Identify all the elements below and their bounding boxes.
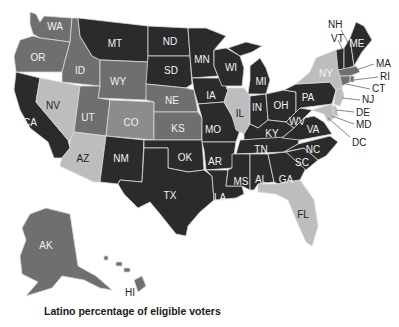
label-ny: NY: [319, 68, 333, 79]
label-nc: NC: [306, 144, 320, 155]
callout-dc: DC: [352, 137, 366, 148]
label-ak: AK: [39, 240, 53, 251]
label-il: IL: [236, 108, 245, 119]
label-wy: WY: [110, 76, 126, 87]
label-wv: WV: [289, 116, 305, 127]
label-in: IN: [252, 102, 262, 113]
label-la: LA: [214, 192, 227, 203]
label-az: AZ: [77, 153, 90, 164]
state-ri[interactable]: [350, 76, 354, 82]
label-sc: SC: [295, 157, 309, 168]
label-or: OR: [31, 52, 46, 63]
callout-vt: VT: [331, 33, 344, 44]
label-wa: WA: [47, 21, 63, 32]
label-ne: NE: [165, 95, 179, 106]
label-oh: OH: [274, 100, 289, 111]
label-id: ID: [75, 65, 85, 76]
state-nj[interactable]: [334, 88, 344, 106]
label-nv: NV: [46, 100, 60, 111]
callout-nj: NJ: [362, 94, 374, 105]
label-al: AL: [255, 174, 268, 185]
label-mi: MI: [255, 76, 266, 87]
map-caption: Latino percentage of eligible voters: [44, 305, 221, 317]
label-mt: MT: [108, 38, 122, 49]
callout-nh: NH: [328, 19, 342, 30]
label-sd: SD: [164, 65, 178, 76]
callout-ma: MA: [376, 58, 391, 69]
label-ks: KS: [171, 123, 185, 134]
callout-ri: RI: [380, 71, 390, 82]
label-mo: MO: [205, 124, 221, 135]
label-ok: OK: [178, 152, 193, 163]
label-va: VA: [307, 124, 320, 135]
state-fl[interactable]: [258, 180, 318, 246]
callout-ct: CT: [372, 83, 385, 94]
callout-md: MD: [356, 119, 372, 130]
label-nd: ND: [163, 36, 177, 47]
label-ky: KY: [265, 128, 279, 139]
label-me: ME: [350, 38, 365, 49]
us-choropleth-map: WA OR CA ID NV MT WY UT AZ CO NM ND SD N…: [0, 0, 399, 327]
label-nm: NM: [113, 153, 129, 164]
label-hi: HI: [125, 287, 135, 298]
state-ak[interactable]: [20, 208, 112, 296]
label-tx: TX: [164, 190, 177, 201]
label-co: CO: [124, 117, 139, 128]
label-tn: TN: [254, 144, 267, 155]
label-ga: GA: [279, 174, 294, 185]
label-ia: IA: [206, 90, 216, 101]
label-mn: MN: [194, 54, 210, 65]
label-pa: PA: [302, 92, 315, 103]
label-ut: UT: [81, 112, 94, 123]
label-ar: AR: [208, 156, 222, 167]
label-wi: WI: [225, 62, 237, 73]
callout-de: DE: [356, 107, 370, 118]
label-fl: FL: [297, 209, 309, 220]
label-ms: MS: [234, 176, 249, 187]
label-ca: CA: [23, 117, 37, 128]
